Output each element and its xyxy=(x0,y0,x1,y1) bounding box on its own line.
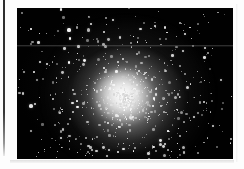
star-point xyxy=(186,131,187,132)
star-point xyxy=(183,30,184,31)
star-point xyxy=(55,93,56,94)
star-point xyxy=(59,110,60,111)
star-point xyxy=(23,71,25,73)
star-point xyxy=(199,33,200,34)
star-point xyxy=(222,131,223,132)
star-point xyxy=(56,77,58,79)
star-point xyxy=(154,25,157,28)
star-point xyxy=(209,82,210,83)
globular-cluster-image xyxy=(17,8,233,159)
star-point xyxy=(65,67,66,68)
star-point xyxy=(164,143,167,146)
star-point xyxy=(209,68,211,70)
star-point xyxy=(68,76,70,78)
star-point xyxy=(28,30,29,31)
star-point xyxy=(39,61,41,63)
star-point xyxy=(36,156,37,157)
star-point xyxy=(62,16,64,18)
star-point xyxy=(59,123,60,124)
star-point xyxy=(207,137,208,138)
star-point xyxy=(51,138,53,140)
star-point xyxy=(197,71,198,72)
star-point xyxy=(39,97,40,98)
star-point xyxy=(87,151,89,153)
star-point xyxy=(38,152,39,153)
star-point xyxy=(46,63,49,66)
star-point xyxy=(22,69,23,70)
star-point xyxy=(30,28,31,29)
star-point xyxy=(204,47,207,50)
star-point xyxy=(211,93,212,94)
star-point xyxy=(108,149,111,152)
star-point xyxy=(88,16,90,18)
star-point xyxy=(37,41,40,44)
star-point xyxy=(203,14,204,15)
star-point xyxy=(207,52,209,54)
star-point xyxy=(44,149,45,150)
star-point xyxy=(77,24,78,25)
star-point xyxy=(222,102,224,104)
star-point xyxy=(221,108,223,110)
star-point xyxy=(67,137,68,138)
caption-area xyxy=(17,161,233,167)
star-point xyxy=(21,12,22,13)
star-point xyxy=(165,38,167,40)
star-point xyxy=(33,71,34,72)
star-point xyxy=(68,52,69,53)
star-point xyxy=(46,33,47,34)
star-point xyxy=(166,32,167,33)
star-point xyxy=(182,50,184,52)
star-point xyxy=(55,140,56,141)
scanned-page xyxy=(0,0,244,169)
star-point xyxy=(44,151,45,152)
star-point xyxy=(105,17,107,19)
star-point xyxy=(197,30,198,31)
star-point xyxy=(63,23,64,24)
star-point xyxy=(67,123,68,124)
star-point xyxy=(46,68,47,69)
page-gutter-rule xyxy=(3,0,5,156)
star-point xyxy=(224,14,225,15)
star-point xyxy=(206,110,207,111)
star-point xyxy=(86,153,87,154)
star-point xyxy=(175,49,176,50)
star-point xyxy=(206,102,207,103)
star-point xyxy=(96,38,97,39)
star-point xyxy=(19,79,20,80)
star-point xyxy=(61,147,63,149)
star-point xyxy=(206,108,207,109)
star-point xyxy=(201,114,203,116)
star-point xyxy=(183,151,185,153)
star-point xyxy=(60,8,62,10)
star-point xyxy=(30,130,32,132)
star-point xyxy=(211,55,212,56)
field-star-layer xyxy=(17,8,233,159)
star-point xyxy=(169,155,170,156)
star-point xyxy=(208,22,209,23)
star-point xyxy=(212,48,213,49)
star-point xyxy=(197,152,199,154)
star-point xyxy=(52,98,54,100)
star-point xyxy=(52,61,54,63)
star-point xyxy=(179,149,180,150)
star-point xyxy=(20,27,21,28)
star-point xyxy=(135,16,136,17)
star-point xyxy=(67,28,70,31)
star-point xyxy=(193,116,195,118)
star-point xyxy=(54,35,55,36)
star-point xyxy=(204,61,205,62)
star-point xyxy=(75,139,76,140)
star-point xyxy=(112,19,115,22)
star-point xyxy=(189,27,190,28)
star-point xyxy=(56,157,57,158)
star-point xyxy=(191,38,192,39)
star-point xyxy=(158,11,159,12)
star-point xyxy=(78,59,79,60)
star-point xyxy=(57,30,59,32)
star-point xyxy=(80,143,82,145)
star-point xyxy=(203,56,206,59)
star-point xyxy=(230,138,232,140)
page-edge-right xyxy=(236,4,238,162)
star-point xyxy=(60,137,63,140)
star-point xyxy=(18,87,19,88)
